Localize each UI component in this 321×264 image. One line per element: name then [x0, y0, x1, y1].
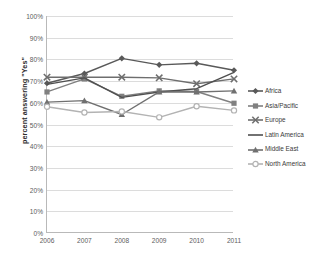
- y-axis-tick-label: 80%: [30, 56, 43, 63]
- legend-item-label: Asia/Pacific: [265, 103, 298, 109]
- y-axis-tick-label: 30%: [30, 164, 43, 171]
- y-axis-tick-label: 50%: [30, 121, 43, 128]
- y-axis-tick-label: 10%: [30, 208, 43, 215]
- legend-item-middle-east[interactable]: Middle East: [248, 142, 320, 157]
- x-axis-tick-label: 2006: [40, 237, 55, 244]
- data-point-marker: [82, 110, 87, 115]
- legend-item-africa[interactable]: Africa: [248, 84, 320, 99]
- y-axis-tick-label: 0%: [33, 230, 43, 237]
- y-axis-tick-label: 40%: [30, 143, 43, 150]
- data-point-marker: [44, 104, 49, 109]
- y-axis-tick-label: 20%: [30, 186, 43, 193]
- series-layer: [47, 16, 234, 233]
- data-point-marker: [157, 115, 162, 120]
- legend-marker-icon: [248, 159, 263, 169]
- data-point-marker: [194, 104, 199, 109]
- x-axis-tick-label: 2010: [189, 237, 204, 244]
- line-chart: percent answering "Yes" 0%10%20%30%40%50…: [0, 0, 321, 264]
- legend-item-label: North America: [265, 161, 306, 167]
- data-point-marker: [44, 89, 49, 94]
- x-axis-tick-label: 2009: [152, 237, 167, 244]
- series-line: [47, 106, 234, 117]
- y-axis-title: percent answering "Yes": [20, 31, 29, 171]
- data-point-marker: [119, 55, 125, 61]
- data-point-marker: [194, 60, 200, 66]
- x-axis-tick-label: 2008: [114, 237, 129, 244]
- data-point-marker: [119, 109, 124, 114]
- plot-area: 0%10%20%30%40%50%60%70%80%90%100% 200620…: [46, 16, 233, 233]
- legend-marker-icon: [248, 145, 263, 155]
- y-axis-tick-label: 60%: [30, 99, 43, 106]
- legend: AfricaAsia/PacificEuropeLatin AmericaMid…: [248, 84, 320, 172]
- data-point-marker: [231, 101, 236, 106]
- data-point-marker: [156, 62, 162, 68]
- y-axis-tick-label: 70%: [30, 78, 43, 85]
- y-axis-tick-label: 100%: [26, 13, 43, 20]
- legend-item-asia-pacific[interactable]: Asia/Pacific: [248, 99, 320, 114]
- legend-marker-icon: [248, 130, 263, 140]
- y-axis-tick-label: 90%: [30, 34, 43, 41]
- legend-marker-icon: [248, 115, 263, 125]
- legend-item-europe[interactable]: Europe: [248, 113, 320, 128]
- x-axis-tick-label: 2007: [77, 237, 92, 244]
- legend-item-label: Africa: [265, 88, 281, 94]
- data-point-marker: [231, 108, 236, 113]
- legend-item-label: Europe: [265, 117, 286, 123]
- legend-item-label: Middle East: [265, 146, 298, 152]
- legend-marker-icon: [248, 86, 263, 96]
- legend-marker-icon: [248, 101, 263, 111]
- legend-item-north-america[interactable]: North America: [248, 157, 320, 172]
- legend-item-label: Latin America: [265, 132, 304, 138]
- x-axis-tick-label: 2011: [227, 237, 241, 244]
- legend-item-latin-america[interactable]: Latin America: [248, 128, 320, 143]
